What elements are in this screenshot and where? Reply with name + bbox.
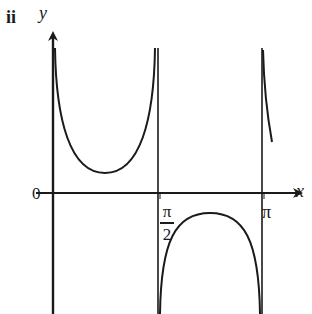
part-label: ii bbox=[6, 8, 16, 26]
curve-branch-2 bbox=[160, 213, 260, 314]
tick-label-pi: π bbox=[262, 203, 271, 221]
graph-canvas bbox=[0, 0, 312, 314]
tick-label-half-pi-numerator: π bbox=[163, 202, 172, 221]
y-axis-label: y bbox=[39, 4, 47, 22]
origin-label: 0 bbox=[32, 185, 41, 202]
tick-label-half-pi: π 2 bbox=[160, 203, 174, 243]
tick-label-half-pi-denominator: 2 bbox=[163, 225, 172, 244]
fraction-bar bbox=[160, 222, 174, 224]
x-axis-label: x bbox=[296, 182, 304, 200]
curve-branch-3 bbox=[263, 50, 272, 142]
curve-branch-1 bbox=[55, 48, 155, 173]
